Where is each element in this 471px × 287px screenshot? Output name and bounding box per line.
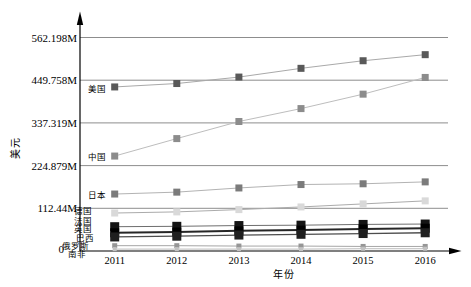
series-0-marker: [173, 80, 180, 87]
series-4-line: [115, 224, 426, 227]
x-tick-label: 2012: [166, 255, 187, 266]
series-8-marker: [237, 247, 241, 251]
x-tick-label: 2011: [104, 255, 125, 266]
series-8-marker: [423, 247, 427, 251]
series-0-marker: [298, 65, 305, 72]
y-tick-label: 112.44M: [37, 202, 77, 214]
series-3-marker: [422, 197, 429, 204]
x-tick-label: 2014: [291, 255, 313, 266]
series-6-marker: [421, 228, 430, 237]
series-0-label: 美国: [88, 84, 106, 94]
series-2-marker: [360, 180, 367, 187]
series-0-marker: [235, 74, 242, 81]
series-6-marker: [234, 231, 243, 240]
series-8-marker: [361, 247, 365, 251]
series-3-marker: [298, 203, 305, 210]
series-1-marker: [298, 105, 305, 112]
series-0-marker: [111, 83, 118, 90]
series-3-marker: [111, 210, 118, 217]
series-3-marker: [235, 206, 242, 213]
series-8-marker: [113, 247, 117, 251]
series-0-line: [115, 55, 426, 87]
y-tick-label: 224.879M: [31, 160, 77, 172]
series-8-label: 南非: [68, 249, 86, 259]
series-6-marker: [359, 229, 368, 238]
x-tick-label: 2016: [415, 255, 436, 266]
series-3-marker: [173, 208, 180, 215]
series-6-marker: [172, 232, 181, 241]
y-tick-label: 449.758M: [31, 74, 77, 86]
series-2-marker: [111, 191, 118, 198]
series-1-marker: [235, 118, 242, 125]
series-2-marker: [298, 181, 305, 188]
y-axis-arrow-icon: [77, 12, 83, 26]
series-7-line: [115, 246, 426, 247]
line-chart-canvas: 562.198M449.758M337.319M224.879M112.44M0…: [0, 0, 471, 287]
x-tick-label: 2013: [228, 255, 249, 266]
series-1-marker: [422, 74, 429, 81]
series-3-marker: [360, 200, 367, 207]
y-tick-label: 337.319M: [31, 117, 77, 129]
series-1-marker: [360, 91, 367, 98]
series-2-marker: [173, 189, 180, 196]
line-chart: 562.198M449.758M337.319M224.879M112.44M0…: [0, 0, 471, 287]
series-0-marker: [422, 51, 429, 58]
x-tick-label: 2015: [353, 255, 374, 266]
y-tick-label: 562.198M: [31, 32, 77, 44]
series-8-marker: [175, 247, 179, 251]
series-1-label: 中国: [88, 152, 106, 162]
series-2-marker: [235, 184, 242, 191]
series-2-line: [115, 182, 426, 194]
series-2-label: 日本: [88, 190, 106, 200]
series-8-marker: [299, 247, 303, 251]
series-6-line: [115, 233, 426, 237]
series-1-marker: [111, 153, 118, 160]
series-1-line: [115, 77, 426, 156]
y-axis-title: 美元: [7, 131, 27, 165]
series-0-marker: [360, 57, 367, 64]
series-6-marker: [297, 230, 306, 239]
series-3-line: [115, 201, 426, 213]
series-1-marker: [173, 135, 180, 142]
series-3-label: 德国: [74, 206, 92, 216]
series-6-marker: [110, 232, 119, 241]
series-2-marker: [422, 178, 429, 185]
x-axis-arrow-icon: [449, 248, 462, 254]
series-5-line: [115, 228, 426, 233]
x-axis-title: 年份: [267, 266, 301, 280]
